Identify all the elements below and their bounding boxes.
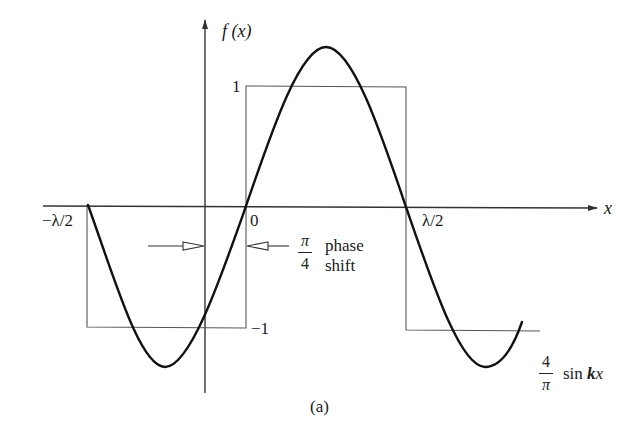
phase-shift-left-arrow (148, 242, 204, 250)
tick-label-origin: 0 (250, 212, 259, 229)
figure-caption: (a) (310, 398, 329, 415)
fraction-bar (298, 252, 312, 253)
phase-fraction-denominator: 4 (301, 256, 309, 272)
curve-label-function: sin kx (563, 365, 603, 382)
curve-label-fraction: 4 π (539, 354, 553, 393)
tick-label-neg-half-lambda: −λ/2 (42, 212, 73, 229)
phase-shift-label-line1: phase (325, 237, 364, 254)
phase-shift-right-arrow (247, 242, 289, 250)
curve-label-sin: sin (563, 364, 583, 383)
tick-label-pos-half-lambda: λ/2 (422, 212, 443, 229)
phase-shift-label-line2: shift (325, 257, 355, 274)
y-axis-label: f (x) (222, 22, 251, 40)
curve-fraction-denominator: π (542, 377, 550, 393)
fraction-bar (539, 373, 553, 374)
curve-label-k: k (587, 364, 596, 383)
tick-label-pos-one: 1 (232, 78, 241, 95)
curve-fraction-numerator: 4 (542, 354, 550, 370)
tick-label-neg-one: −1 (251, 320, 269, 337)
square-wave (87, 86, 540, 331)
x-axis-label: x (604, 199, 612, 217)
x-axis (43, 206, 597, 208)
phase-shift-fraction: π 4 (298, 233, 312, 272)
phase-fraction-numerator: π (301, 233, 309, 249)
curve-label-x: x (596, 364, 604, 383)
